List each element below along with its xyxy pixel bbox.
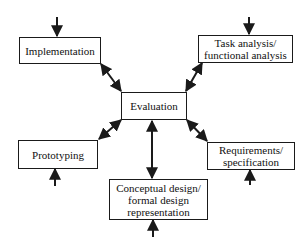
edge-evaluation-implementation	[101, 64, 121, 91]
node-requirements: Requirements/ specification	[207, 142, 295, 170]
node-label-line: functional analysis	[204, 49, 287, 61]
node-label-line: Implementation	[25, 45, 95, 57]
node-task-analysis: Task analysis/ functional analysis	[198, 35, 293, 63]
node-label-line: Task analysis/	[215, 37, 277, 49]
node-label-line: representation	[127, 206, 189, 218]
node-label-line: Evaluation	[130, 100, 178, 112]
node-conceptual-design: Conceptual design/ formal design represe…	[109, 179, 208, 220]
edge-evaluation-prototyping	[99, 120, 121, 139]
node-label-line: specification	[223, 156, 279, 168]
node-label-line: Conceptual design/	[116, 182, 201, 194]
node-label-line: Prototyping	[32, 149, 84, 161]
node-label-line: formal design	[128, 194, 189, 206]
edge-evaluation-task-analysis	[186, 63, 202, 91]
edge-evaluation-requirements	[187, 120, 207, 141]
node-prototyping: Prototyping	[18, 140, 98, 169]
node-evaluation: Evaluation	[121, 92, 187, 120]
node-label-line: Requirements/	[219, 144, 283, 156]
node-implementation: Implementation	[19, 37, 101, 64]
